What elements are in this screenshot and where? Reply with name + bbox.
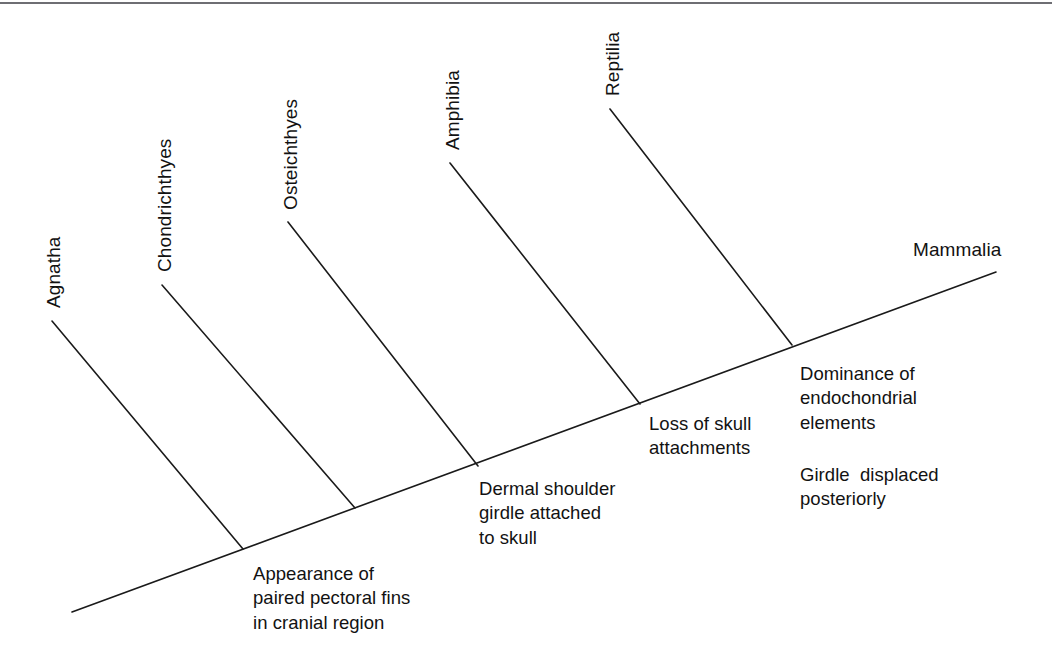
branch-line-osteichthyes <box>288 222 478 466</box>
branch-line-amphibia <box>450 163 640 404</box>
backbone-line <box>72 272 996 612</box>
branch-line-reptilia <box>610 109 792 345</box>
cladogram-lines <box>0 0 1052 661</box>
trait-label-loss-of-skull-attachments: Loss of skull attachments <box>649 412 751 461</box>
trait-label-endochondrial-dominance: Dominance of endochondrial elements <box>800 362 917 435</box>
trait-label-dermal-shoulder-girdle: Dermal shoulder girdle attached to skull <box>479 477 615 550</box>
cladogram-figure: Agnatha Chondrichthyes Osteichthyes Amph… <box>0 0 1052 661</box>
trait-label-pectoral-fins: Appearance of paired pectoral fins in cr… <box>253 562 410 635</box>
taxon-label-reptilia: Reptilia <box>603 32 622 96</box>
branch-line-chondrichthyes <box>162 285 355 508</box>
branch-line-agnatha <box>52 321 243 549</box>
taxon-label-mammalia: Mammalia <box>913 240 1001 259</box>
taxon-label-amphibia: Amphibia <box>443 70 462 150</box>
taxon-label-chondrichthyes: Chondrichthyes <box>155 139 174 272</box>
taxon-label-osteichthyes: Osteichthyes <box>281 99 300 210</box>
taxon-label-agnatha: Agnatha <box>44 237 63 309</box>
trait-label-girdle-displaced: Girdle displaced posteriorly <box>800 463 939 512</box>
